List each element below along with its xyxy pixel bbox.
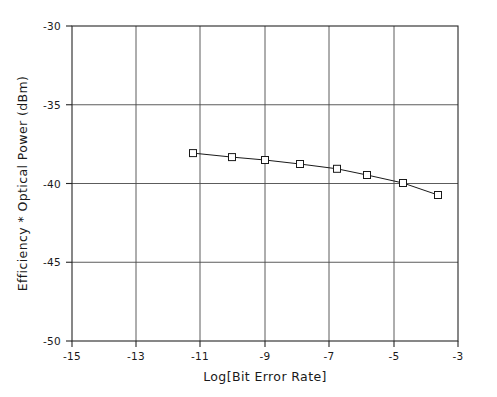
x-axis-ticks <box>72 341 458 347</box>
line-chart-plot: -15 -13 -11 -9 -7 -5 -3 -30 -35 -40 -45 … <box>0 0 497 397</box>
data-point-marker[interactable] <box>229 154 236 161</box>
x-tick-label: -13 <box>127 350 145 362</box>
data-point-marker[interactable] <box>297 161 304 168</box>
data-point-marker[interactable] <box>190 150 197 157</box>
x-tick-label: -11 <box>191 350 209 362</box>
y-axis-title: Efficiency * Optical Power (dBm) <box>15 76 30 292</box>
y-tick-label: -40 <box>43 178 61 190</box>
y-tick-label: -35 <box>43 99 61 111</box>
data-point-marker[interactable] <box>364 172 371 179</box>
data-point-marker[interactable] <box>400 180 407 187</box>
y-tick-label: -30 <box>43 20 61 32</box>
data-point-marker[interactable] <box>262 157 269 164</box>
x-axis-title: Log[Bit Error Rate] <box>203 369 327 384</box>
x-tick-labels: -15 -13 -11 -9 -7 -5 -3 <box>63 350 464 362</box>
y-axis-ticks <box>66 26 72 341</box>
y-tick-label: -50 <box>43 335 61 347</box>
x-tick-label: -3 <box>452 350 463 362</box>
data-point-marker[interactable] <box>334 165 341 172</box>
x-tick-label: -7 <box>323 350 334 362</box>
x-tick-label: -9 <box>259 350 270 362</box>
data-point-marker[interactable] <box>435 192 442 199</box>
y-tick-label: -45 <box>43 256 61 268</box>
x-tick-label: -15 <box>63 350 81 362</box>
y-tick-labels: -30 -35 -40 -45 -50 <box>43 20 61 347</box>
x-tick-label: -5 <box>388 350 399 362</box>
chart-figure: -15 -13 -11 -9 -7 -5 -3 -30 -35 -40 -45 … <box>0 0 497 397</box>
